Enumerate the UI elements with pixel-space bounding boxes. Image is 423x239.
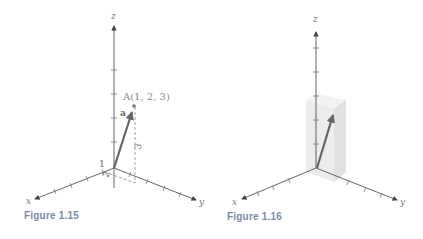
y-axis-label: y: [399, 197, 406, 207]
vector-a: [114, 112, 132, 168]
box-side-face: [334, 100, 346, 182]
figure-1-15: z x y A(1, 2, 3) a 1 2 3: [26, 11, 205, 207]
x-axis-label: x: [26, 196, 31, 206]
z-axis-label: z: [110, 11, 116, 21]
point-a: [132, 104, 136, 108]
figure-1-16: z x y: [232, 14, 406, 207]
x-axis: [242, 168, 316, 199]
y-axis-ticks: [129, 172, 181, 197]
figures-canvas: z x y A(1, 2, 3) a 1 2 3: [0, 0, 423, 239]
vector-a-label: a: [120, 108, 126, 118]
point-a-label: A(1, 2, 3): [122, 91, 170, 102]
y-axis-label: y: [198, 197, 205, 207]
y-axis: [316, 168, 397, 200]
component-label-x: 1: [99, 159, 105, 169]
y-axis: [114, 168, 196, 200]
y-tick: [163, 186, 165, 191]
figure-caption: Figure 1.15: [24, 210, 79, 221]
z-axis-label: z: [312, 14, 318, 24]
x-axis-label: x: [232, 197, 237, 207]
component-label-z: 3: [132, 142, 143, 151]
figure-caption: Figure 1.16: [227, 211, 282, 222]
